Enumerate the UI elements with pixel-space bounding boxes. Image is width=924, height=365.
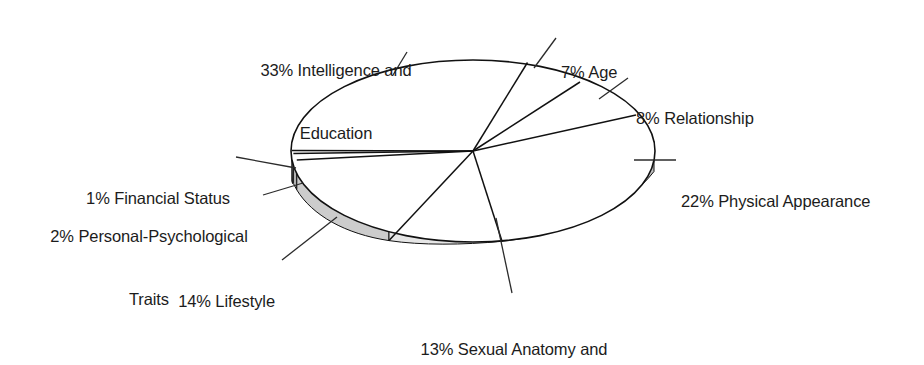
- label-intelligence-and-education: 33% Intelligence and Education: [196, 18, 476, 186]
- label-relationship-line1: 8% Relationship: [636, 108, 876, 129]
- label-sexual-anatomy-and-bedroom-behavior: 13% Sexual Anatomy and Bedroom Behavior: [389, 297, 639, 365]
- label-financial-status-line1: 1% Financial Status: [30, 188, 230, 209]
- leader-lifestyle: [282, 217, 337, 260]
- label-intelligence-and-education-line1: 33% Intelligence and: [196, 60, 476, 81]
- label-physical-appearance: 22% Physical Appearance: [681, 149, 924, 254]
- label-sexual-anatomy-and-bedroom-behavior-line1: 13% Sexual Anatomy and: [389, 339, 639, 360]
- pie-chart: 33% Intelligence and Education 7% Age 8%…: [0, 0, 924, 365]
- label-financial-status: 1% Financial Status: [30, 146, 230, 251]
- leader-age: [534, 38, 556, 68]
- label-personal-psychological-traits-line2: Traits: [40, 289, 258, 310]
- label-intelligence-and-education-line2: Education: [196, 123, 476, 144]
- label-physical-appearance-line1: 22% Physical Appearance: [681, 191, 924, 212]
